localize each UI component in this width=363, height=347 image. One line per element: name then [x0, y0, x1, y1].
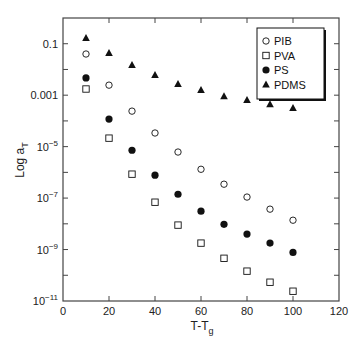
- data-point: [243, 96, 251, 103]
- data-point: [244, 268, 250, 274]
- data-point: [152, 199, 158, 205]
- y-axis-title: Log aT: [13, 142, 30, 178]
- data-point: [152, 130, 158, 136]
- data-point: [243, 231, 250, 238]
- data-point: [82, 74, 89, 81]
- data-point: [174, 191, 181, 198]
- data-point: [290, 288, 296, 294]
- data-point: [244, 194, 250, 200]
- data-point: [105, 116, 112, 123]
- data-point: [220, 92, 228, 99]
- legend-label-pdms: PDMS: [274, 79, 306, 91]
- legend-label-pva: PVA: [274, 50, 296, 62]
- series-ps: [82, 74, 296, 256]
- data-point: [290, 217, 296, 223]
- y-tick-label: 10−11: [33, 293, 59, 307]
- data-point: [220, 221, 227, 228]
- x-tick-label: 40: [149, 305, 161, 317]
- data-point: [198, 240, 204, 246]
- series-pva: [83, 86, 296, 295]
- x-tick-label: 0: [60, 305, 66, 317]
- data-point: [105, 49, 113, 56]
- x-tick-label: 20: [103, 305, 115, 317]
- legend-marker-pva: [263, 52, 269, 58]
- x-tick-label: 120: [330, 305, 348, 317]
- data-point: [266, 240, 273, 247]
- data-point: [106, 135, 112, 141]
- data-point: [197, 208, 204, 215]
- y-tick-label: 10−7: [37, 190, 59, 204]
- data-point: [174, 80, 182, 87]
- data-point: [221, 181, 227, 187]
- data-point: [151, 172, 158, 179]
- data-point: [175, 149, 181, 155]
- legend-marker-pib: [263, 38, 269, 44]
- data-point: [266, 100, 274, 107]
- y-tick-label: 0.001: [30, 89, 58, 101]
- data-point: [289, 104, 297, 111]
- data-point: [129, 108, 135, 114]
- data-point: [198, 166, 204, 172]
- data-point: [83, 86, 89, 92]
- x-axis-title: T-Tg: [190, 319, 213, 336]
- legend-marker-ps: [262, 66, 269, 73]
- data-point: [197, 86, 205, 93]
- data-point: [129, 171, 135, 177]
- legend-label-pib: PIB: [274, 35, 292, 47]
- data-point: [106, 82, 112, 88]
- data-point: [267, 279, 273, 285]
- data-point: [128, 147, 135, 154]
- x-tick-label: 100: [284, 305, 302, 317]
- legend: PIBPVAPSPDMS: [257, 28, 326, 101]
- data-point: [83, 51, 89, 57]
- data-point: [151, 71, 159, 78]
- data-point: [175, 222, 181, 228]
- data-point: [221, 255, 227, 261]
- data-point: [267, 206, 273, 212]
- x-tick-label: 80: [241, 305, 253, 317]
- data-point: [128, 61, 136, 68]
- y-tick-label: 10−5: [37, 139, 59, 153]
- x-tick-label: 60: [195, 305, 207, 317]
- chart: 0204060801001200.10.00110−510−710−910−11…: [0, 0, 363, 347]
- y-tick-label: 10−9: [37, 242, 59, 256]
- legend-label-ps: PS: [274, 64, 289, 76]
- y-tick-label: 0.1: [43, 38, 58, 50]
- data-point: [82, 34, 90, 41]
- data-point: [289, 249, 296, 256]
